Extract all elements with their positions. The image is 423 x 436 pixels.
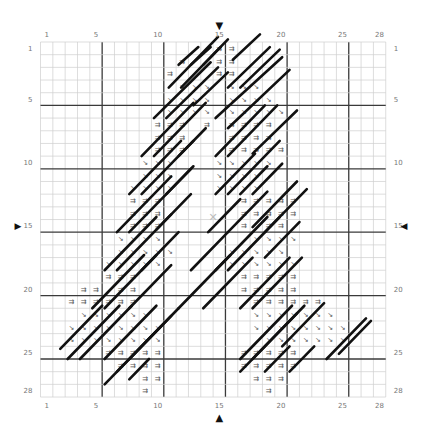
diagonal-arrow-symbol: ↘ <box>105 336 111 344</box>
diagonal-arrow-symbol: ↘ <box>327 336 333 344</box>
backstitch-line <box>233 34 260 59</box>
double-arrow-symbol: ⇉ <box>105 273 111 281</box>
row-label-left: 28 <box>24 387 33 395</box>
backstitch-line <box>228 192 267 233</box>
diagonal-arrow-symbol: ↘ <box>303 311 309 319</box>
diagonal-arrow-symbol: ↘ <box>290 324 296 332</box>
backstitch-line <box>193 72 228 105</box>
row-label-right: 28 <box>394 387 403 395</box>
double-arrow-symbol: ⇉ <box>253 134 259 142</box>
double-arrow-symbol: ⇉ <box>278 375 284 383</box>
center-marker-top-icon: ▼ <box>215 20 223 31</box>
diagonal-arrow-symbol: ↘ <box>303 336 309 344</box>
diagonal-arrow-symbol: ↘ <box>167 248 173 256</box>
center-marker-right-icon: ◀ <box>401 221 408 231</box>
backstitch-line <box>179 255 231 308</box>
double-arrow-symbol: ⇉ <box>278 146 284 154</box>
diagonal-arrow-symbol: ↘ <box>118 235 124 243</box>
diagonal-arrow-symbol: ↘ <box>118 324 124 332</box>
diagonal-arrow-symbol: ↘ <box>68 324 74 332</box>
diagonal-arrow-symbol: ↘ <box>278 248 284 256</box>
row-label-left: 15 <box>24 222 33 230</box>
double-arrow-symbol: ⇉ <box>253 362 259 370</box>
row-label-left: 5 <box>28 96 32 104</box>
double-arrow-symbol: ⇉ <box>253 375 259 383</box>
diagonal-arrow-symbol: ↘ <box>241 96 247 104</box>
double-arrow-symbol: ⇉ <box>155 375 161 383</box>
row-label-right: 25 <box>394 349 403 357</box>
diagonal-arrow-symbol: ↘ <box>142 159 148 167</box>
diagonal-arrow-symbol: ↘ <box>253 248 259 256</box>
column-label-top: 1 <box>44 31 48 39</box>
double-arrow-symbol: ⇉ <box>229 45 235 53</box>
double-arrow-symbol: ⇉ <box>266 387 272 395</box>
double-arrow-symbol: ⇉ <box>155 121 161 129</box>
row-label-left: 10 <box>24 159 33 167</box>
double-arrow-symbol: ⇉ <box>142 349 148 357</box>
double-arrow-symbol: ⇉ <box>118 349 124 357</box>
diagonal-arrow-symbol: ↘ <box>229 159 235 167</box>
diagonal-arrow-symbol: ↘ <box>315 336 321 344</box>
double-arrow-symbol: ⇉ <box>266 121 272 129</box>
diagonal-arrow-symbol: ↘ <box>340 324 346 332</box>
column-label-top: 28 <box>375 31 384 39</box>
double-arrow-symbol: ⇉ <box>229 70 235 78</box>
double-arrow-symbol: ⇉ <box>167 70 173 78</box>
double-arrow-symbol: ⇉ <box>278 362 284 370</box>
double-arrow-symbol: ⇉ <box>142 387 148 395</box>
double-arrow-symbol: ⇉ <box>278 298 284 306</box>
double-arrow-symbol: ⇉ <box>130 362 136 370</box>
diagonal-arrow-symbol: ↘ <box>130 336 136 344</box>
diagonal-arrow-symbol: ↘ <box>155 260 161 268</box>
double-arrow-symbol: ⇉ <box>290 286 296 294</box>
double-arrow-symbol: ⇉ <box>155 362 161 370</box>
column-label-bottom: 25 <box>338 402 347 410</box>
column-label-bottom: 1 <box>44 402 48 410</box>
double-arrow-symbol: ⇉ <box>253 273 259 281</box>
diagonal-arrow-symbol: ↘ <box>266 235 272 243</box>
double-arrow-symbol: ⇉ <box>155 349 161 357</box>
double-arrow-symbol: ⇉ <box>241 197 247 205</box>
column-label-top: 25 <box>338 31 347 39</box>
diagonal-arrow-symbol: ↘ <box>155 235 161 243</box>
column-label-bottom: 15 <box>215 402 224 410</box>
column-label-top: 10 <box>153 31 162 39</box>
diagonal-arrow-symbol: ↘ <box>327 311 333 319</box>
diagonal-arrow-symbol: ↘ <box>155 336 161 344</box>
double-arrow-symbol: ⇉ <box>290 273 296 281</box>
diagonal-arrow-symbol: ↘ <box>315 324 321 332</box>
cross-stitch-chart: ⇉⇉⇉⇉⇉⇉⇉⇉↘↘↘↘↘↘↘↘↘↘↘↘↘↘↘↘↘↘↘↘↘↘↘⇉⇉⇉⇉⇉⇉⇉⇉⇉… <box>0 0 423 436</box>
diagonal-arrow-symbol: ↘ <box>278 336 284 344</box>
column-label-bottom: 10 <box>153 402 162 410</box>
diagonal-arrow-symbol: ↘ <box>81 311 87 319</box>
double-arrow-symbol: ⇉ <box>241 146 247 154</box>
column-label-bottom: 20 <box>276 402 285 410</box>
double-arrow-symbol: ⇉ <box>216 58 222 66</box>
diagonal-arrow-symbol: ↘ <box>229 108 235 116</box>
row-label-left: 25 <box>24 349 33 357</box>
column-label-top: 20 <box>276 31 285 39</box>
diagonal-arrow-symbol: ↘ <box>327 324 333 332</box>
diagonal-arrow-symbol: ↘ <box>204 108 210 116</box>
double-arrow-symbol: ⇉ <box>253 210 259 218</box>
diagonal-arrow-symbol: ↘ <box>278 108 284 116</box>
double-arrow-symbol: ⇉ <box>290 349 296 357</box>
column-label-top: 5 <box>94 31 98 39</box>
double-arrow-symbol: ⇉ <box>266 349 272 357</box>
diagonal-arrow-symbol: ↘ <box>266 260 272 268</box>
double-arrow-symbol: ⇉ <box>130 197 136 205</box>
center-marker-left-icon: ▶ <box>15 221 22 231</box>
diagonal-arrow-symbol: ↘ <box>266 311 272 319</box>
row-label-right: 1 <box>394 45 398 53</box>
double-arrow-symbol: ⇉ <box>68 298 74 306</box>
diagonal-arrow-symbol: ↘ <box>142 324 148 332</box>
diagonal-arrow-symbol: ↘ <box>253 324 259 332</box>
double-arrow-symbol: ⇉ <box>241 286 247 294</box>
row-label-right: 10 <box>394 159 403 167</box>
row-label-left: 1 <box>28 45 32 53</box>
symbol-layer: ⇉⇉⇉⇉⇉⇉⇉⇉↘↘↘↘↘↘↘↘↘↘↘↘↘↘↘↘↘↘↘↘↘↘↘⇉⇉⇉⇉⇉⇉⇉⇉⇉… <box>68 45 345 395</box>
row-label-right: 20 <box>394 286 403 294</box>
row-label-left: 20 <box>24 286 33 294</box>
diagonal-arrow-symbol: ↘ <box>253 260 259 268</box>
double-arrow-symbol: ⇉ <box>278 222 284 230</box>
